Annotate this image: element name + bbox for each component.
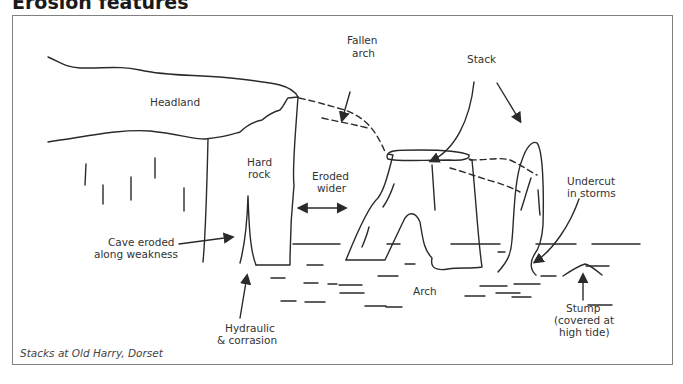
label-fallen-arch-line2: arch [352,47,375,59]
undercut-arrow [535,199,579,262]
diagram-caption: Stacks at Old Harry, Dorset [20,347,163,359]
label-fallen-arch-line1: Fallen [347,34,377,46]
label-hydraulic-line2: & corrasion [217,334,277,346]
stack-arrow-right [497,83,520,121]
label-hydraulic-line1: Hydraulic [225,322,275,334]
water-dashes [271,252,612,307]
hydraulic-arrow [240,276,247,318]
label-cave-line2: along weakness [94,248,178,260]
label-arch: Arch [413,285,437,297]
arch-left [346,154,393,260]
stack-arrow-left [431,82,474,161]
hard-rock-left [203,139,208,262]
arch-strata [362,165,435,247]
label-undercut-line2: in storms [567,187,616,199]
label-cave-line1: Cave eroded [108,236,175,248]
label-stump-line1: Stump [566,302,600,314]
cave-arrow [179,237,232,244]
label-undercut-line1: Undercut [567,175,615,187]
label-headland: Headland [150,96,200,108]
headland-outline [48,57,298,97]
label-stump-line3: high tide) [559,326,610,338]
label-eroded-wider-line1: Eroded [312,170,349,182]
label-stack: Stack [467,53,496,65]
label-stump-line2: (covered at [554,314,614,326]
cave-crack [240,196,256,265]
label-hard-rock-line2: rock [248,168,270,180]
label-hard-rock-line1: Hard [247,156,272,168]
hard-rock-right [256,97,298,265]
tall-stack [498,142,543,275]
fallen-arch-arrow [342,92,350,120]
label-eroded-wider-line2: wider [317,182,346,194]
strata-lines [85,158,184,211]
arch-top [387,150,469,161]
tall-stack-strata [521,178,540,215]
